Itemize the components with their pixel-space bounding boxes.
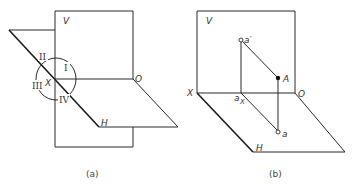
point-A-label: A [282,74,289,84]
projection-diagrams: V H X O II I III IV (a) V H X O A [0,0,357,187]
quadrant-1-label: I [64,63,68,73]
projection-line-ax-a [241,93,278,131]
quadrant-2-label: II [39,52,47,62]
point-a-prime-label: a′ [244,35,252,45]
quadrant-3-label: III [32,81,43,91]
projector-A-a-prime [241,40,278,78]
h-plane-front [99,79,178,127]
figure-b-caption: (b) [269,169,282,179]
v-plane-label: V [206,16,213,26]
x-axis-label: X [186,88,194,98]
point-ax-label: a [234,93,240,103]
v-plane-lower [55,79,133,147]
h-plane-edges [253,93,345,152]
figure-b-point-projection: V H X O A a′ a a X (b) [186,11,345,179]
quadrant-4-label: IV [59,95,70,105]
h-plane-label: H [101,118,108,128]
x-axis-label: X [44,78,52,88]
v-plane-label: V [63,16,70,26]
origin-label: O [135,74,142,84]
figure-a-caption: (a) [86,169,99,179]
origin-label: O [298,89,305,99]
point-A [276,76,280,80]
point-a-label: a [282,129,288,139]
h-plane-label: H [256,143,263,153]
point-ax-subscript: X [239,98,245,106]
point-a-prime [239,38,243,42]
figure-a-four-quadrants: V H X O II I III IV (a) [9,11,178,179]
point-a [276,130,280,134]
